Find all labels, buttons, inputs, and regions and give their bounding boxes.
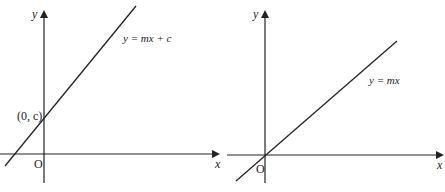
intercept-label: (0, c) [17, 109, 42, 123]
graph-right: y x O y = mx [227, 7, 443, 183]
line-y-mx [236, 41, 397, 181]
y-axis-label: y [252, 7, 259, 21]
line-equation-label: y = mx + c [122, 32, 172, 44]
y-axis-label: y [31, 7, 38, 21]
origin-label: O [256, 162, 265, 176]
origin-label: O [34, 157, 43, 171]
graph-left: y x O y = mx + c (0, c) [0, 6, 221, 183]
line-y-mx-c [5, 6, 136, 166]
x-axis-label: x [214, 157, 221, 171]
line-equation-label: y = mx [368, 74, 400, 86]
diagram-canvas: y x O y = mx + c (0, c) y x O y = mx [0, 0, 445, 192]
x-axis-label: x [436, 158, 443, 172]
